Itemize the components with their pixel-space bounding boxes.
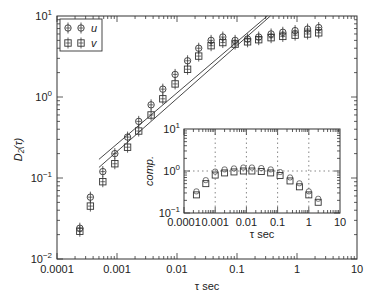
inset-x-tick-label: 0.01: [236, 216, 257, 228]
main-x-axis-label: τ sec: [195, 280, 220, 292]
inset-x-tick-label: 1: [306, 216, 312, 228]
inset-x-tick-label: 0.001: [201, 216, 229, 228]
main-x-tick-label: 0.1: [229, 263, 244, 275]
main-x-tick-label: 0.01: [166, 263, 187, 275]
main-y-tick-label: 100: [35, 89, 52, 103]
main-y-tick-label: 101: [35, 8, 52, 22]
chart-canvas: 0.00010.0010.010.111010110010−110−2τ sec…: [0, 0, 374, 298]
inset-x-tick-label: 10: [334, 216, 346, 228]
main-y-axis-label: D₂(τ): [12, 137, 24, 161]
main-x-tick-label: 0.001: [103, 263, 131, 275]
main-x-tick-label: 1: [294, 263, 300, 275]
inset-y-axis-label: comp.: [143, 156, 155, 186]
main-x-tick-label: 0.0001: [40, 263, 74, 275]
inset-x-tick-label: 0.1: [270, 216, 285, 228]
legend: uv: [60, 19, 102, 51]
main-y-tick-label: 10−1: [31, 170, 53, 184]
legend-label-u: u: [91, 22, 97, 34]
inset-x-axis-label: τ sec: [250, 228, 275, 240]
main-x-tick-label: 10: [351, 263, 363, 275]
inset-x-tick-label: 0.0001: [167, 216, 201, 228]
